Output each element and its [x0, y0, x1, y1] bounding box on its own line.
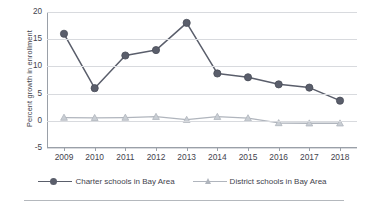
chart-legend: Charter schools in Bay AreaDistrict scho… [0, 176, 365, 186]
x-tick-label: 2009 [47, 152, 81, 162]
legend-key-circle-icon [38, 176, 72, 186]
series-district [61, 113, 344, 126]
x-tickmark [340, 148, 341, 151]
series-line [64, 23, 340, 101]
x-tickmark [64, 148, 65, 151]
gridline--5 [47, 148, 357, 149]
gridline-10 [47, 66, 357, 67]
y-tick-label: 5 [22, 90, 42, 98]
x-tick-label: 2018 [323, 152, 357, 162]
data-point-marker [275, 81, 282, 88]
data-point-marker [122, 52, 129, 59]
y-tick-label: 0 [22, 117, 42, 125]
y-tick-label: 20 [22, 8, 42, 16]
x-tickmark [125, 148, 126, 151]
data-series-layer [47, 12, 357, 148]
data-point-marker [91, 85, 98, 92]
x-tick-label: 2010 [78, 152, 112, 162]
x-tick-label: 2016 [262, 152, 296, 162]
plot-area [47, 12, 357, 148]
legend-marker [205, 178, 211, 184]
x-tick-label: 2015 [231, 152, 265, 162]
legend-label: Charter schools in Bay Area [75, 177, 174, 186]
gridline-20 [47, 12, 357, 13]
x-tick-label: 2014 [200, 152, 234, 162]
data-point-marker [152, 46, 159, 53]
x-tickmark [309, 148, 310, 151]
bottom-divider [24, 200, 344, 201]
x-tickmark [248, 148, 249, 151]
x-axis-tick-labels: 2009201020112012201320142015201620172018 [47, 152, 357, 166]
y-tick-label: 15 [22, 35, 42, 43]
x-tickmark [156, 148, 157, 151]
data-point-marker [336, 97, 343, 104]
gridline-0 [47, 121, 357, 122]
x-tickmark [187, 148, 188, 151]
x-tick-label: 2012 [139, 152, 173, 162]
data-point-marker [214, 70, 221, 77]
legend-label: District schools in Bay Area [230, 177, 327, 186]
data-point-marker [306, 84, 313, 91]
legend-entry-district[interactable]: District schools in Bay Area [193, 176, 327, 186]
x-tickmark [95, 148, 96, 151]
x-tickmark [279, 148, 280, 151]
legend-entry-charter[interactable]: Charter schools in Bay Area [38, 176, 174, 186]
x-tick-label: 2011 [108, 152, 142, 162]
data-point-marker [60, 30, 67, 37]
x-tickmark [217, 148, 218, 151]
y-axis-line [47, 12, 48, 148]
gridline-5 [47, 94, 357, 95]
y-tick-label: 10 [22, 62, 42, 70]
data-point-marker [183, 19, 190, 26]
data-point-marker [244, 74, 251, 81]
y-tick-label: -5 [22, 144, 42, 152]
gridline-15 [47, 39, 357, 40]
legend-key-triangle-icon [193, 176, 227, 186]
legend-marker [50, 178, 57, 185]
line-chart: Percent growth in enrollment 20151050-5 … [0, 0, 365, 209]
x-tick-label: 2017 [292, 152, 326, 162]
series-charter [60, 19, 343, 104]
x-tick-label: 2013 [170, 152, 204, 162]
